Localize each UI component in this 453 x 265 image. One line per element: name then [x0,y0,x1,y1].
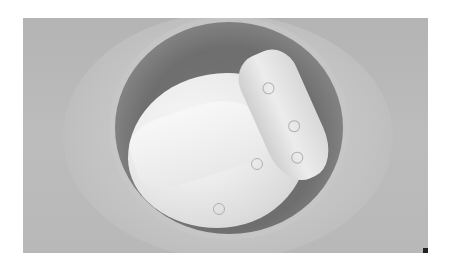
flower-pattern-icon [289,150,305,166]
flower-pattern-icon [261,80,277,96]
corner-mark [423,248,428,253]
flower-pattern-icon [251,158,263,170]
photo [23,18,428,253]
flower-pattern-icon [213,203,225,215]
flower-pattern-icon [286,118,302,134]
